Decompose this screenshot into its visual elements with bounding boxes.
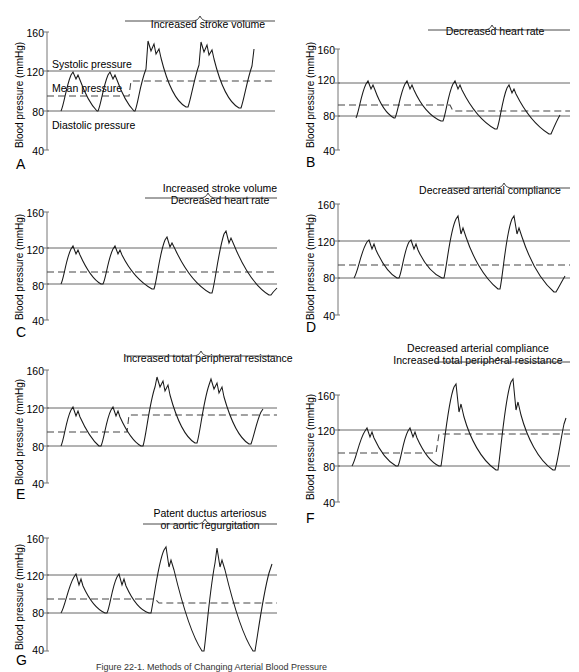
panel-F-waveform: [352, 379, 566, 470]
panel-D-heading: Decreased arterial compliance: [405, 184, 575, 196]
panel-D-letter: D: [306, 320, 316, 334]
panel-E-ytick-120: 120: [22, 403, 44, 415]
panel-F-ytick-40: 40: [313, 497, 335, 509]
panel-C-ylabel: Blood pressure (mmHg): [14, 214, 25, 320]
panel-G-ylabel: Blood pressure (mmHg): [14, 544, 25, 650]
panel-B-plot: [338, 44, 578, 194]
panel-A-ytick-80: 80: [22, 106, 44, 118]
panel-D-ytick-80: 80: [313, 272, 335, 284]
panel-F-plot: [338, 390, 578, 540]
panel-G-letter: G: [16, 653, 27, 667]
panel-G-ytick-160: 160: [22, 533, 44, 545]
mean-pressure-line: [47, 599, 277, 603]
panel-F-letter: F: [306, 511, 315, 525]
panel-B-waveform: [356, 81, 560, 134]
panel-D-ytick-160: 160: [313, 199, 335, 211]
panel-G-heading: Patent ductus arteriosus or aortic regur…: [120, 507, 300, 531]
panel-C-ytick-80: 80: [22, 280, 44, 292]
panel-C-ytick-160: 160: [22, 207, 44, 219]
panel-B-ytick-160: 160: [313, 44, 335, 56]
panel-D-ytick-120: 120: [313, 236, 335, 248]
panel-E-ytick-80: 80: [22, 441, 44, 453]
panel-E-waveform: [61, 377, 263, 446]
panel-F-ytick-160: 160: [313, 390, 335, 402]
panel-G-ytick-80: 80: [22, 607, 44, 619]
mean-pressure-line: [338, 105, 570, 111]
mean-pressure-line: [47, 415, 277, 432]
panel-B-ytick-40: 40: [313, 145, 335, 157]
panel-G-plot: [47, 533, 287, 663]
panel-B-heading: Decreased heart rate: [420, 25, 570, 37]
panel-E-ytick-160: 160: [22, 365, 44, 377]
panel-A-waveform: [61, 41, 254, 111]
panel-B-ytick-80: 80: [313, 110, 335, 122]
panel-C-ytick-120: 120: [22, 244, 44, 256]
panel-C-waveform: [61, 231, 277, 295]
panel-B-letter: B: [306, 155, 315, 169]
panel-D-ytick-40: 40: [313, 310, 335, 322]
panel-G-ytick-120: 120: [22, 570, 44, 582]
panel-E-plot: [47, 365, 287, 505]
panel-A-letter: A: [16, 157, 25, 171]
figure-caption: Figure 22-1. Methods of Changing Arteria…: [96, 662, 327, 672]
panel-E-letter: E: [16, 487, 25, 501]
panel-A-ytick-160: 160: [22, 27, 44, 39]
panel-D-ylabel: Blood pressure (mmHg): [305, 214, 316, 320]
panel-C-heading: Increased stroke volume Decreased heart …: [140, 182, 300, 206]
panel-A-ytick-40: 40: [22, 145, 44, 157]
panel-D-waveform: [354, 216, 565, 292]
panel-F-ytick-80: 80: [313, 461, 335, 473]
panel-D-plot: [338, 199, 578, 339]
panel-B-ytick-120: 120: [313, 74, 335, 86]
panel-C-letter: C: [16, 325, 26, 339]
panel-E-ylabel: Blood pressure (mmHg): [14, 379, 25, 485]
panel-A-plot: [47, 27, 287, 177]
panel-F-ylabel: Blood pressure (mmHg): [305, 394, 316, 500]
panel-E-heading: Increased total peripheral resistance: [108, 352, 308, 364]
panel-A-ytick-120: 120: [22, 66, 44, 78]
panel-F-ytick-120: 120: [313, 425, 335, 437]
panel-B-ylabel: Blood pressure (mmHg): [305, 42, 316, 148]
panel-A-ylabel: Blood pressure (mmHg): [14, 42, 25, 148]
panel-C-plot: [47, 207, 287, 347]
